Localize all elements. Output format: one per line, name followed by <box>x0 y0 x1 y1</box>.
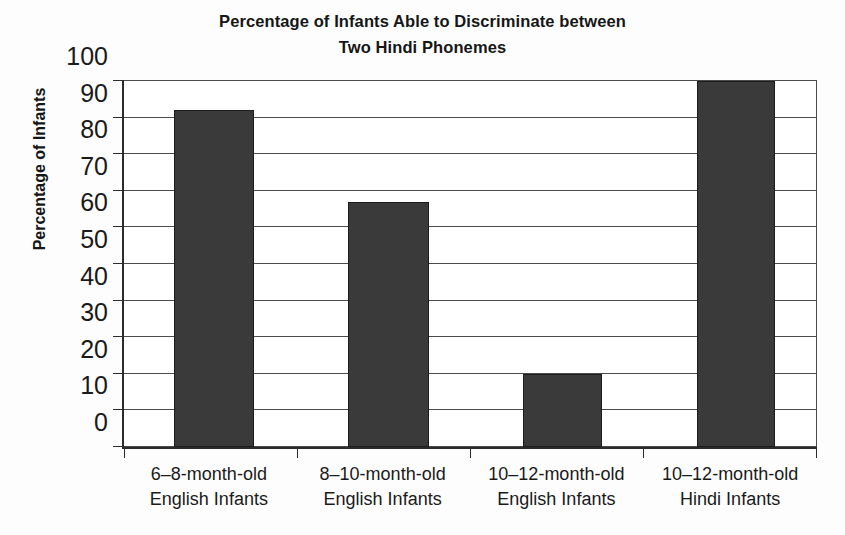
y-tick-label-10: 10 <box>18 373 108 398</box>
x-label-2-line-2: English Infants <box>470 487 644 512</box>
x-label-3-line-1: 10–12-month-old <box>643 462 817 487</box>
chart-title: Percentage of Infants Able to Discrimina… <box>0 8 845 60</box>
y-tick-label-20: 20 <box>18 336 108 361</box>
x-label-0-line-1: 6–8-month-old <box>122 462 296 487</box>
bar-0[interactable] <box>174 110 254 447</box>
y-tick-label-40: 40 <box>18 263 108 288</box>
x-label-0: 6–8-month-old English Infants <box>122 462 296 512</box>
y-tick-100 <box>113 80 124 81</box>
x-tick-0 <box>124 447 125 458</box>
x-label-3-line-2: Hindi Infants <box>643 487 817 512</box>
x-tick-2 <box>470 447 471 458</box>
y-tick-10 <box>113 409 124 410</box>
x-tick-4 <box>816 447 817 458</box>
plot-area: 0 10 20 30 40 50 60 70 80 90 100 <box>122 80 817 449</box>
y-tick-50 <box>113 263 124 264</box>
bar-chart-figure: Percentage of Infants Able to Discrimina… <box>0 0 845 535</box>
x-label-0-line-2: English Infants <box>122 487 296 512</box>
y-tick-70 <box>113 190 124 191</box>
y-tick-0 <box>113 446 124 447</box>
y-tick-label-70: 70 <box>18 153 108 178</box>
x-tick-1 <box>297 447 298 458</box>
y-tick-label-100: 100 <box>18 44 108 69</box>
chart-title-line-2: Two Hindi Phonemes <box>0 34 845 60</box>
y-tick-label-0: 0 <box>18 410 108 435</box>
bar-1[interactable] <box>348 202 429 447</box>
bar-2[interactable] <box>523 374 602 447</box>
x-label-2: 10–12-month-old English Infants <box>470 462 644 512</box>
x-label-1-line-2: English Infants <box>296 487 470 512</box>
y-tick-label-80: 80 <box>18 117 108 142</box>
x-tick-3 <box>643 447 644 458</box>
x-label-1: 8–10-month-old English Infants <box>296 462 470 512</box>
y-tick-label-30: 30 <box>18 300 108 325</box>
y-tick-20 <box>113 373 124 374</box>
chart-title-line-1: Percentage of Infants Able to Discrimina… <box>0 8 845 34</box>
bar-3[interactable] <box>697 81 775 447</box>
y-tick-30 <box>113 336 124 337</box>
y-tick-90 <box>113 117 124 118</box>
x-label-1-line-1: 8–10-month-old <box>296 462 470 487</box>
x-label-2-line-1: 10–12-month-old <box>470 462 644 487</box>
x-label-3: 10–12-month-old Hindi Infants <box>643 462 817 512</box>
y-tick-label-90: 90 <box>18 80 108 105</box>
y-tick-60 <box>113 226 124 227</box>
x-axis-labels: 6–8-month-old English Infants 8–10-month… <box>122 462 817 524</box>
y-tick-label-50: 50 <box>18 227 108 252</box>
y-tick-40 <box>113 300 124 301</box>
y-tick-80 <box>113 153 124 154</box>
y-tick-label-60: 60 <box>18 190 108 215</box>
